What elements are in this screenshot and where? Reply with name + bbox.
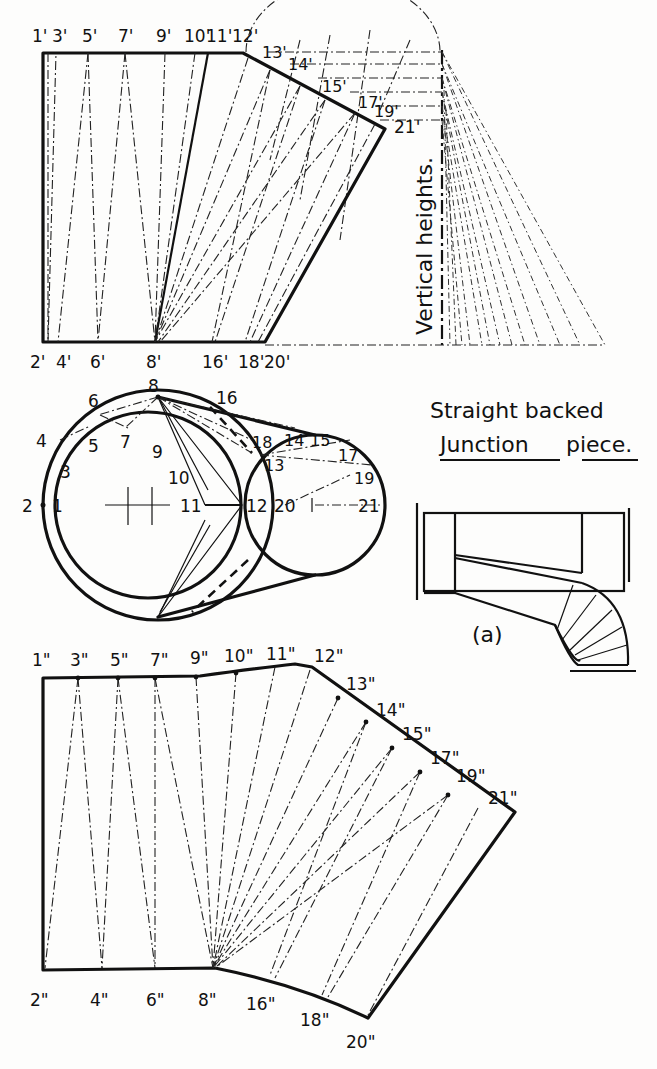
label-14: 14 — [284, 431, 304, 450]
label-20: 20 — [274, 496, 296, 516]
label-20p: 20' — [264, 352, 290, 372]
label-11p: 11' — [206, 26, 232, 46]
title-piece: piece. — [566, 432, 632, 457]
label-7p: 7' — [118, 26, 134, 46]
label-13dp: 13" — [346, 674, 375, 694]
label-5dp: 5" — [110, 650, 129, 670]
label-18p: 18' — [238, 352, 264, 372]
label-19dp: 19" — [456, 766, 485, 786]
junction-piece-drawing: 1' 3' 5' 7' 9' 10' 11' 12' 13' 14' 15' 1… — [0, 0, 657, 1069]
label-16dp: 16" — [246, 994, 275, 1014]
pattern-outline — [43, 664, 515, 1018]
label-10: 10 — [168, 468, 190, 488]
label-14dp: 14" — [376, 700, 405, 720]
label-10dp: 10" — [224, 646, 253, 666]
label-4: 4 — [36, 431, 47, 451]
label-1dp: 1" — [32, 650, 51, 670]
label-5: 5 — [88, 436, 99, 456]
label-2p: 2' — [30, 352, 46, 372]
label-4p: 4' — [56, 352, 72, 372]
label-16: 16 — [216, 388, 238, 408]
label-9: 9 — [152, 442, 163, 462]
label-15dp: 15" — [402, 724, 431, 744]
label-8dp: 8" — [198, 990, 217, 1010]
development-outline — [43, 53, 385, 342]
label-6p: 6' — [90, 352, 106, 372]
label-11: 11 — [180, 496, 202, 516]
label-18dp: 18" — [300, 1010, 329, 1030]
label-6dp: 6" — [146, 990, 165, 1010]
label-5p: 5' — [82, 26, 98, 46]
plan-view: 2 1 4 3 6 5 8 7 9 10 11 16 18 14 15 13 1… — [22, 376, 385, 620]
vertical-heights-label: Vertical heights. — [412, 157, 437, 335]
label-7dp: 7" — [150, 650, 169, 670]
label-2: 2 — [22, 496, 33, 516]
label-7: 7 — [120, 432, 131, 452]
bottom-pattern: 1" 3" 5" 7" 9" 10" 11" 12" 13" 14" 15" 1… — [30, 644, 517, 1052]
label-18: 18 — [252, 433, 272, 452]
label-13p: 13' — [262, 43, 287, 62]
label-6: 6 — [88, 391, 99, 411]
label-1p: 1' — [32, 26, 48, 46]
label-21dp: 21" — [488, 788, 517, 808]
title-line1: Straight backed — [430, 398, 604, 423]
label-4dp: 4" — [90, 990, 109, 1010]
label-20dp: 20" — [346, 1032, 375, 1052]
label-9dp: 9" — [190, 648, 209, 668]
label-9p: 9' — [156, 26, 172, 46]
label-15p: 15' — [322, 77, 347, 96]
label-3: 3 — [60, 462, 71, 482]
label-3dp: 3" — [70, 650, 89, 670]
label-17dp: 17" — [430, 748, 459, 768]
label-21: 21 — [358, 496, 380, 516]
diagram-page: 1' 3' 5' 7' 9' 10' 11' 12' 13' 14' 15' 1… — [0, 0, 657, 1069]
label-8p: 8' — [146, 352, 162, 372]
label-12dp: 12" — [314, 646, 343, 666]
top-development: 1' 3' 5' 7' 9' 10' 11' 12' 13' 14' 15' 1… — [30, 0, 605, 372]
label-17: 17 — [338, 446, 358, 465]
figure-a: (a) — [417, 503, 636, 671]
label-2dp: 2" — [30, 990, 49, 1010]
label-3p: 3' — [52, 26, 68, 46]
label-16p: 16' — [202, 352, 228, 372]
label-15: 15 — [310, 431, 330, 450]
label-21p: 21' — [394, 117, 420, 137]
figure-a-label: (a) — [472, 622, 503, 647]
label-12p: 12' — [232, 26, 258, 46]
label-13: 13 — [264, 456, 284, 475]
label-1: 1 — [52, 496, 63, 516]
label-12: 12 — [246, 496, 268, 516]
label-11dp: 11" — [266, 644, 295, 664]
label-14p: 14' — [288, 55, 313, 74]
title-junction: Junction — [438, 432, 529, 457]
label-8: 8 — [148, 376, 159, 396]
title-block: Straight backed Junction piece. — [430, 398, 638, 460]
label-19: 19 — [354, 469, 374, 488]
